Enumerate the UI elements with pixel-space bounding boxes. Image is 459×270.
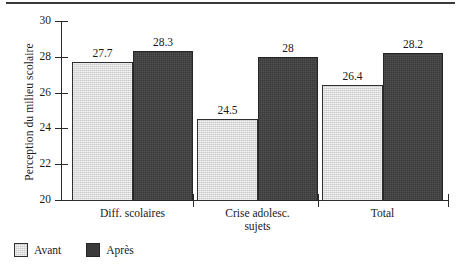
bar-avant-crise-adolesc xyxy=(197,119,258,201)
legend-item-apres[interactable]: Après xyxy=(86,243,133,257)
y-tick-label-22: 22 xyxy=(11,158,51,169)
x-category-label-crise-adolesc: Crise adolesc. sujets xyxy=(187,207,328,232)
legend-swatch-apres xyxy=(86,243,100,257)
y-tick-22 xyxy=(55,164,68,165)
x-category-label-total: Total xyxy=(312,207,453,220)
y-tick-24 xyxy=(55,128,68,129)
y-tick-label-24: 24 xyxy=(11,122,51,133)
bar-chart-figure: Perception du milieu scolaire 30 28 26 2… xyxy=(0,0,459,270)
bar-value-apres-diff-scolaires: 28.3 xyxy=(133,36,193,48)
x-group-separator-1 xyxy=(193,194,194,207)
x-category-label-crise-adolesc-line2: sujets xyxy=(187,220,328,233)
bar-value-avant-total: 26.4 xyxy=(322,70,383,82)
legend-label-avant: Avant xyxy=(34,244,61,256)
y-tick-20 xyxy=(55,200,68,201)
x-group-separator-2 xyxy=(318,194,319,207)
legend-swatch-avant xyxy=(14,243,28,257)
x-axis-end-tick xyxy=(448,194,449,207)
plot-area: Perception du milieu scolaire 30 28 26 2… xyxy=(0,0,459,270)
bar-value-apres-crise-adolesc: 28 xyxy=(258,42,318,54)
x-category-label-diff-scolaires: Diff. scolaires xyxy=(62,207,203,220)
bar-avant-diff-scolaires xyxy=(72,62,133,201)
y-axis-line xyxy=(61,21,62,201)
chart-legend: Avant Après xyxy=(14,243,152,257)
y-axis-title: Perception du milieu scolaire xyxy=(23,17,35,207)
bar-avant-total xyxy=(322,85,383,201)
bar-value-avant-diff-scolaires: 27.7 xyxy=(72,47,133,59)
x-category-label-crise-adolesc-line1: Crise adolesc. xyxy=(187,207,328,220)
y-tick-label-30: 30 xyxy=(11,15,51,26)
y-tick-label-20: 20 xyxy=(11,194,51,205)
y-tick-label-26: 26 xyxy=(11,87,51,98)
y-tick-28 xyxy=(55,57,68,58)
legend-label-apres: Après xyxy=(106,244,133,256)
y-tick-label-28: 28 xyxy=(11,51,51,62)
bar-apres-total xyxy=(383,53,443,201)
bar-value-apres-total: 28.2 xyxy=(383,38,443,50)
bar-apres-diff-scolaires xyxy=(133,51,193,201)
legend-item-avant[interactable]: Avant xyxy=(14,243,61,257)
bar-value-avant-crise-adolesc: 24.5 xyxy=(197,104,258,116)
y-tick-30 xyxy=(55,21,68,22)
y-tick-26 xyxy=(55,93,68,94)
bar-apres-crise-adolesc xyxy=(258,57,318,201)
